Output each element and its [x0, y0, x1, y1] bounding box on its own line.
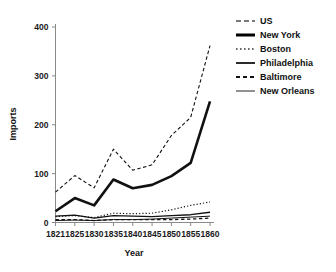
y-axis-title: Imports: [8, 107, 18, 140]
legend-swatch-us: [236, 16, 255, 26]
legend-swatch-baltimore: [236, 72, 255, 82]
x-tick-label: 1830: [85, 229, 104, 239]
legend-label-us: US: [260, 16, 273, 26]
legend-item-philadelphia[interactable]: Philadelphia: [236, 56, 336, 69]
y-tick-label: 100: [34, 169, 48, 179]
legend-item-new-york[interactable]: New York: [236, 28, 336, 41]
chart-plot-area: 0100200300400 18211825183018351840184518…: [0, 0, 230, 272]
legend-item-boston[interactable]: Boston: [236, 42, 336, 55]
x-tick-label: 1850: [162, 229, 181, 239]
series-group: [56, 46, 211, 221]
y-tick-label: 400: [34, 22, 48, 32]
line-chart-svg: 0100200300400 18211825183018351840184518…: [0, 0, 230, 272]
x-tick-label: 1845: [143, 229, 162, 239]
x-axis-title: Year: [124, 248, 144, 258]
legend-swatch-new-orleans: [236, 86, 255, 96]
x-tick-label: 1825: [65, 229, 84, 239]
legend-label-boston: Boston: [260, 44, 291, 54]
x-tick-label: 1840: [123, 229, 142, 239]
series-line-new-york: [56, 101, 211, 211]
legend-swatch-new-york: [236, 30, 255, 40]
legend-item-baltimore[interactable]: Baltimore: [236, 70, 336, 83]
legend-item-new-orleans[interactable]: New Orleans: [236, 84, 336, 97]
x-axis-ticks: 182118251830183518401845185018551860: [46, 223, 220, 239]
x-tick-label: 1860: [201, 229, 220, 239]
x-tick-label: 1835: [104, 229, 123, 239]
y-axis-ticks: 0100200300400: [34, 22, 55, 228]
legend-label-new-york: New York: [260, 30, 300, 40]
series-line-us: [56, 46, 211, 193]
y-tick-label: 200: [34, 120, 48, 130]
legend-item-us[interactable]: US: [236, 14, 336, 27]
chart-legend: US New York Boston Philadelphia Baltimor…: [236, 14, 336, 98]
y-tick-label: 300: [34, 71, 48, 81]
x-tick-label: 1821: [46, 229, 65, 239]
legend-label-new-orleans: New Orleans: [260, 86, 315, 96]
legend-swatch-boston: [236, 44, 255, 54]
y-tick-label: 0: [44, 218, 49, 228]
legend-swatch-philadelphia: [236, 58, 255, 68]
legend-label-baltimore: Baltimore: [260, 72, 302, 82]
x-tick-label: 1855: [181, 229, 200, 239]
legend-label-philadelphia: Philadelphia: [260, 58, 313, 68]
chart-root: 0100200300400 18211825183018351840184518…: [0, 0, 336, 272]
